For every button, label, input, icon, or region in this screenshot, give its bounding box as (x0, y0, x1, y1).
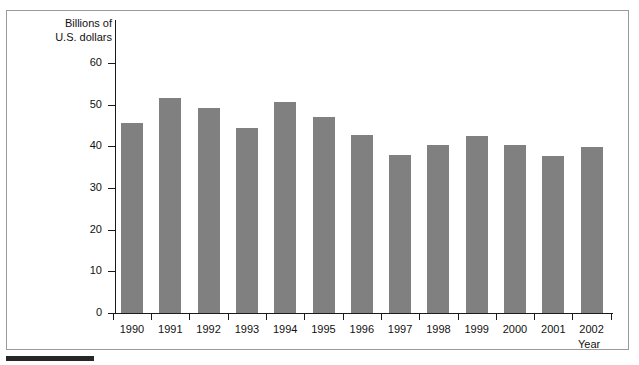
bar (581, 147, 603, 313)
x-tick-label: 1999 (458, 323, 496, 335)
y-tick-label: 40 (68, 140, 102, 151)
x-tick-mark (381, 313, 382, 320)
footer-rule (6, 356, 94, 361)
x-tick-label: 2001 (534, 323, 572, 335)
x-tick-label: 1994 (266, 323, 304, 335)
bar (427, 145, 449, 313)
x-tick-mark (151, 313, 152, 320)
y-tick-label: 10 (68, 265, 102, 276)
x-tick-label: 1993 (228, 323, 266, 335)
bar (351, 135, 373, 313)
y-tick-mark (108, 271, 116, 272)
y-tick-label: 50 (68, 99, 102, 110)
x-tick-mark (534, 313, 535, 320)
bar-chart-figure: Billions of U.S. dollars 0102030405060 1… (0, 0, 639, 365)
x-tick-label: 2002 (573, 323, 611, 335)
bar (542, 156, 564, 314)
x-tick-mark (304, 313, 305, 320)
bar (389, 155, 411, 313)
y-tick-label: 20 (68, 224, 102, 235)
bar (121, 123, 143, 313)
y-tick-mark (108, 146, 116, 147)
x-tick-mark (611, 313, 612, 320)
y-tick-mark (108, 105, 116, 106)
y-tick-mark (108, 230, 116, 231)
x-tick-mark (113, 313, 114, 320)
bar (504, 145, 526, 313)
x-tick-label: 1998 (419, 323, 457, 335)
x-tick-label: 1995 (305, 323, 343, 335)
x-tick-mark (458, 313, 459, 320)
y-tick-label: 0 (68, 307, 102, 318)
bar (274, 102, 296, 313)
y-tick-label: 60 (68, 57, 102, 68)
x-tick-label: 1992 (190, 323, 228, 335)
bar (236, 128, 258, 313)
y-tick-mark (108, 313, 116, 314)
x-tick-mark (266, 313, 267, 320)
bar (159, 98, 181, 313)
x-tick-label: 1997 (381, 323, 419, 335)
bar (466, 136, 488, 313)
x-tick-mark (189, 313, 190, 320)
x-tick-label: 1996 (343, 323, 381, 335)
y-tick-label: 30 (68, 182, 102, 193)
x-axis-line (108, 313, 613, 314)
x-tick-label: 1991 (151, 323, 189, 335)
x-axis-title: Year (578, 338, 600, 350)
x-tick-mark (343, 313, 344, 320)
bar (313, 117, 335, 313)
y-tick-mark (108, 188, 116, 189)
x-tick-label: 1990 (113, 323, 151, 335)
x-tick-mark (496, 313, 497, 320)
x-tick-mark (228, 313, 229, 320)
y-tick-mark (108, 63, 116, 64)
y-axis-line (115, 20, 116, 314)
x-tick-label: 2000 (496, 323, 534, 335)
bar (198, 108, 220, 313)
y-axis-title: Billions of U.S. dollars (30, 16, 112, 44)
x-tick-mark (572, 313, 573, 320)
x-tick-mark (419, 313, 420, 320)
